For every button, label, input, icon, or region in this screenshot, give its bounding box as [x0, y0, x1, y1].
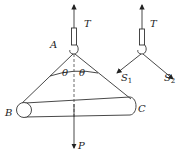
hook-link-right [140, 29, 145, 45]
force-s1-arrow [117, 54, 141, 73]
label-t-right: T [150, 18, 158, 29]
label-s1: S1 [121, 72, 132, 85]
label-a: A [49, 39, 57, 50]
label-theta-right: θ [79, 67, 85, 78]
label-p: P [77, 140, 85, 151]
right-figure: T S1 S2 [117, 5, 175, 85]
physics-diagram: T A θ θ B C P T S1 S2 [0, 0, 190, 154]
hook-icon [70, 44, 78, 54]
cylinder-top-edge [25, 97, 130, 103]
cylinder-bottom-edge [25, 115, 130, 117]
label-t-left: T [84, 18, 92, 29]
label-b: B [4, 107, 12, 118]
label-c: C [138, 103, 146, 114]
cylinder-end-c [130, 97, 136, 115]
label-theta-left: θ [62, 67, 68, 78]
hook-link [72, 28, 77, 45]
cable-ab [19, 54, 73, 106]
hook-icon-right [138, 44, 146, 54]
label-s2: S2 [164, 72, 175, 85]
cylinder-end-b [17, 103, 32, 118]
